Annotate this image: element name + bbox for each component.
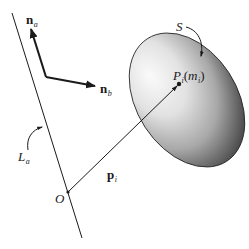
label-s: S (176, 20, 183, 33)
vector-na (31, 29, 46, 77)
label-pvec-sub: i (115, 175, 117, 184)
vector-nb (46, 77, 95, 86)
label-na-sub: a (34, 20, 38, 29)
label-mi-sub: i (198, 76, 200, 85)
label-pvec-main: p (107, 167, 114, 182)
label-pi-paren-close: ) (200, 68, 204, 83)
label-pi-sub: i (181, 76, 183, 85)
label-pi-mi: Pi(mi) (173, 69, 205, 82)
label-pi-main: P (173, 68, 181, 83)
label-la: La (18, 150, 30, 163)
label-la-main: L (18, 149, 25, 164)
line-la (12, 13, 82, 238)
rigid-body-diagram (0, 0, 249, 249)
label-mi-main: m (188, 68, 197, 83)
origin-point (66, 190, 69, 193)
label-la-sub: a (26, 157, 30, 166)
label-na: na (26, 13, 38, 26)
label-origin-o: O (55, 192, 64, 205)
label-nb-sub: b (108, 89, 112, 98)
leader-arrow-la (28, 127, 42, 150)
label-na-main: n (26, 12, 33, 27)
label-nb-main: n (100, 81, 107, 96)
label-nb: nb (100, 82, 112, 95)
body-s (105, 12, 249, 189)
label-pi-vector: pi (107, 168, 117, 181)
